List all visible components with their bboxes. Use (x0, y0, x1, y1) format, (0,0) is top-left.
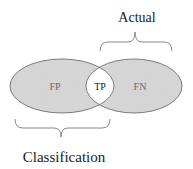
classification-title: Classification (23, 149, 106, 165)
tp-label: TP (94, 81, 106, 92)
classification-brace (15, 119, 110, 137)
actual-title: Actual (118, 10, 155, 25)
venn-diagram: FP TP FN Actual Classification (0, 0, 193, 169)
actual-brace (100, 32, 172, 51)
fn-label: FN (134, 81, 147, 92)
fp-label: FP (49, 81, 61, 92)
